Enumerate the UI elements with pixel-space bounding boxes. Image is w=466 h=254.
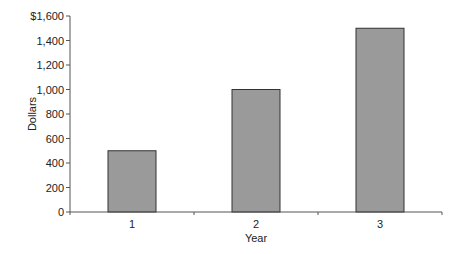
y-axis-label: Dollars bbox=[26, 96, 38, 131]
x-tick-label: 2 bbox=[253, 218, 259, 230]
y-tick-label: 0 bbox=[58, 206, 64, 218]
bar-year-3 bbox=[356, 28, 404, 212]
y-tick-label: 1,400 bbox=[36, 35, 64, 47]
x-axis-ticks: 123 bbox=[70, 212, 442, 230]
y-tick-label: 1,000 bbox=[36, 84, 64, 96]
y-tick-label: 600 bbox=[46, 133, 64, 145]
y-tick-label: $1,600 bbox=[30, 10, 64, 22]
y-tick-label: 400 bbox=[46, 157, 64, 169]
x-axis-label: Year bbox=[245, 232, 268, 244]
bar-year-2 bbox=[232, 90, 280, 213]
x-tick-label: 1 bbox=[129, 218, 135, 230]
y-tick-label: 800 bbox=[46, 108, 64, 120]
bar-chart: 02004006008001,0001,2001,400$1,600 123 D… bbox=[0, 0, 466, 254]
y-tick-label: 200 bbox=[46, 182, 64, 194]
bar-year-1 bbox=[108, 151, 156, 212]
bars bbox=[108, 28, 404, 212]
y-tick-label: 1,200 bbox=[36, 59, 64, 71]
x-tick-label: 3 bbox=[377, 218, 383, 230]
